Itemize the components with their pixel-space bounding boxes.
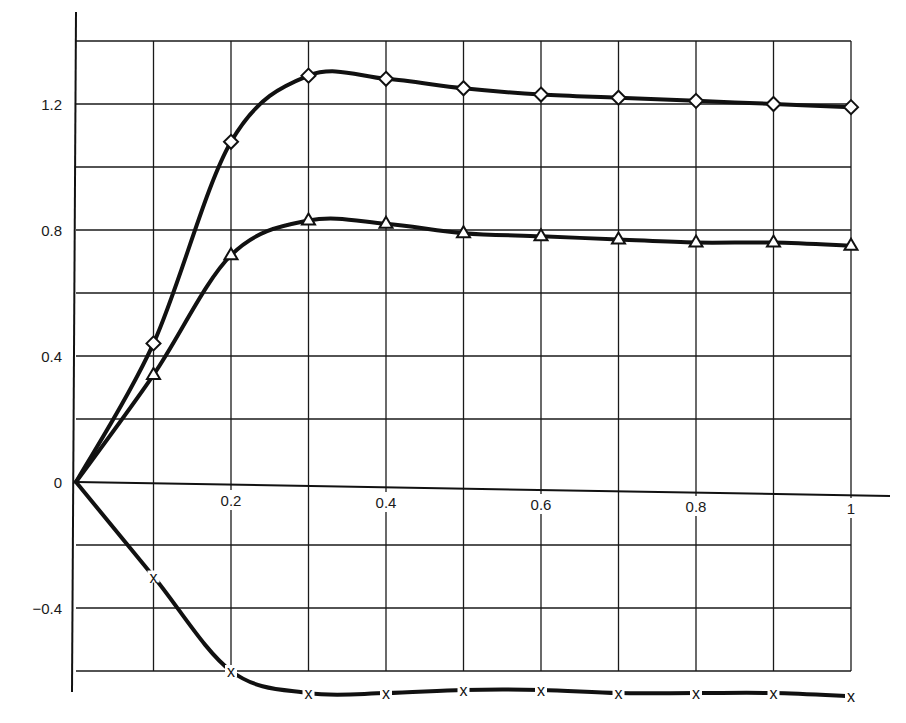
series-diamond (76, 69, 858, 482)
x-marker: x (305, 685, 313, 702)
y-tick-label: 1.2 (41, 96, 62, 113)
x-marker: x (150, 569, 158, 586)
series-triangle (76, 214, 858, 482)
diamond-marker (689, 94, 703, 108)
x-tick-label: 1 (847, 500, 855, 517)
y-tick-label: 0 (54, 474, 62, 491)
x-marker: x (227, 663, 235, 680)
x-tick-label: 0.4 (376, 494, 397, 511)
diamond-marker (147, 336, 161, 350)
data-series: xxxxxxxxxx (76, 69, 858, 706)
x-marker: x (770, 685, 778, 702)
x-tick-label: 0.2 (221, 492, 242, 509)
diamond-marker (844, 100, 858, 114)
diamond-marker (302, 69, 316, 83)
x-tick-label: 0.6 (531, 496, 552, 513)
x-marker: x (382, 685, 390, 702)
y-axis-line (72, 12, 76, 692)
x-marker: x (537, 682, 545, 699)
x-marker: x (692, 685, 700, 702)
x-marker: x (847, 688, 855, 705)
series-cross: xxxxxxxxxx (76, 482, 857, 705)
x-marker: x (460, 682, 468, 699)
y-tick-label: 0.4 (41, 348, 62, 365)
grid-lines (76, 41, 851, 671)
diamond-marker (612, 91, 626, 105)
x-axis-line (76, 482, 890, 496)
diamond-marker (534, 88, 548, 102)
y-tick-label: −0.4 (32, 600, 62, 617)
diamond-marker (379, 72, 393, 86)
line-chart: 0.20.40.60.81 1.20.80.40−0.4 xxxxxxxxxx (0, 0, 906, 723)
diamond-marker (767, 97, 781, 111)
x-marker: x (615, 685, 623, 702)
axes (72, 12, 890, 692)
x-tick-label: 0.8 (686, 498, 707, 515)
y-tick-label: 0.8 (41, 222, 62, 239)
y-axis-ticks: 1.20.80.40−0.4 (32, 96, 62, 617)
diamond-marker (457, 81, 471, 95)
